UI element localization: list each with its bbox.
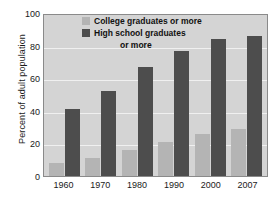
x-tick-label: 1990: [158, 180, 189, 190]
legend-swatch-college-icon: [82, 17, 90, 25]
bar-highschool: [211, 39, 226, 176]
x-tick-label: 1960: [48, 180, 79, 190]
legend-label-college: College graduates or more: [94, 16, 202, 27]
bar-college: [231, 129, 246, 176]
legend-item-college: College graduates or more: [82, 16, 252, 27]
bar-college: [49, 163, 64, 176]
legend: College graduates or more High school gr…: [82, 16, 252, 51]
legend-label-highschool-continuation: or more: [94, 40, 252, 51]
x-tick-label: 2000: [195, 180, 226, 190]
bar-highschool: [247, 36, 262, 176]
x-axis-tick-labels: 196019701980199020002007: [43, 180, 268, 190]
y-tick-label: 100: [25, 9, 40, 19]
bar-college: [122, 150, 137, 176]
bar-college: [195, 134, 210, 176]
y-tick-label: 80: [30, 42, 40, 52]
legend-swatch-highschool-icon: [82, 29, 90, 37]
bar-group: [49, 15, 80, 176]
bar-highschool: [174, 51, 189, 177]
y-tick-label: 20: [30, 139, 40, 149]
bar-college: [85, 158, 100, 176]
x-tick-label: 1970: [85, 180, 116, 190]
bar-highschool: [65, 109, 80, 176]
bar-college: [158, 142, 173, 176]
y-axis-tick-labels: 020406080100: [16, 14, 40, 177]
legend-item-highschool: High school graduates: [82, 28, 252, 39]
x-tick-label: 2007: [232, 180, 263, 190]
legend-label-highschool: High school graduates: [94, 28, 186, 39]
bar-highschool: [138, 67, 153, 176]
bar-highschool: [101, 91, 116, 176]
y-tick-label: 40: [30, 107, 40, 117]
x-tick-label: 1980: [122, 180, 153, 190]
y-tick-label: 0: [35, 172, 40, 182]
bar-chart: Percent of adult population 020406080100…: [0, 0, 273, 201]
y-tick-label: 60: [30, 74, 40, 84]
